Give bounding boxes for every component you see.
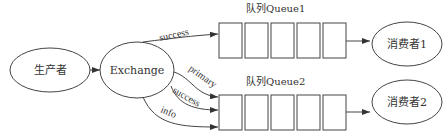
queue-slot	[297, 95, 320, 130]
producer-node: 生产者	[10, 48, 90, 92]
queue2	[219, 95, 346, 130]
queue-slot	[245, 95, 268, 130]
edge-label-success-queue1: success	[158, 26, 190, 43]
queue1	[219, 23, 346, 58]
producer-label: 生产者	[34, 63, 67, 77]
queue1-title: 队列Queue1	[246, 2, 305, 14]
edge-label-success: success	[171, 84, 203, 109]
queue-slot	[219, 95, 242, 130]
consumer2-label: 消费者2	[387, 95, 427, 109]
edge-info	[143, 97, 218, 127]
queue-slot	[271, 95, 294, 130]
queue2-title: 队列Queue2	[246, 75, 305, 87]
exchange-label: Exchange	[110, 64, 165, 77]
queue-slot	[219, 23, 242, 58]
queue-slot	[245, 23, 268, 58]
consumer1-node: 消费者1	[372, 22, 442, 66]
rabbitmq-routing-diagram: 生产者 Exchange success primary success inf…	[0, 0, 443, 140]
queue-slot	[323, 23, 346, 58]
queue-slot	[271, 23, 294, 58]
queue-slot	[297, 23, 320, 58]
queue-slot	[323, 95, 346, 130]
exchange-node: Exchange	[100, 42, 174, 98]
edge-label-primary: primary	[187, 63, 219, 90]
consumer1-label: 消费者1	[387, 37, 427, 51]
consumer2-node: 消费者2	[372, 80, 442, 124]
edge-label-info: info	[159, 104, 178, 120]
